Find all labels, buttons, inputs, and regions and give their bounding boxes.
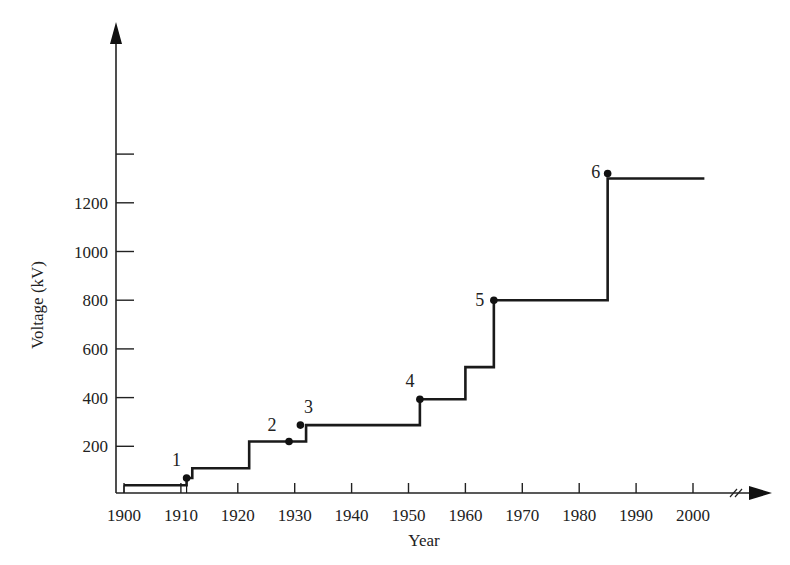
milestone-label: 3 (304, 397, 313, 417)
x-tick-label: 1920 (221, 506, 255, 525)
y-tick-label: 400 (83, 389, 109, 408)
milestone-label: 2 (268, 415, 277, 435)
y-tick-label: 200 (83, 437, 109, 456)
y-tick-label: 1200 (74, 194, 108, 213)
milestone-dot (285, 438, 293, 446)
voltage-step-chart: 20040060080010001200 1900191019201930194… (0, 0, 790, 565)
x-tick-label: 1910 (164, 506, 198, 525)
y-tick-label: 1000 (74, 243, 108, 262)
milestone-label: 5 (475, 290, 484, 310)
milestone-dot (490, 296, 498, 304)
milestone-label: 6 (591, 162, 600, 182)
x-tick-label: 1970 (505, 506, 539, 525)
x-tick-label: 1930 (278, 506, 312, 525)
x-tick-label: 1900 (107, 506, 141, 525)
milestone-dot (416, 396, 424, 404)
annotations: 123456 (172, 162, 611, 482)
y-tick-label: 600 (83, 340, 109, 359)
y-axis-arrow-icon (110, 22, 122, 44)
step-line (124, 178, 704, 485)
x-tick-label: 1950 (392, 506, 426, 525)
x-axis: 1900191019201930194019501960197019801990… (107, 483, 772, 525)
x-tick-label: 1980 (562, 506, 596, 525)
milestone-label: 1 (172, 450, 181, 470)
y-axis: 20040060080010001200 (74, 22, 134, 493)
milestone-label: 4 (405, 371, 414, 391)
x-axis-title: Year (408, 531, 440, 550)
y-axis-title: Voltage (kV) (28, 261, 47, 349)
milestone-dot (604, 170, 612, 178)
milestone-dot (297, 421, 305, 429)
x-tick-label: 1990 (619, 506, 653, 525)
x-axis-arrow-icon (749, 486, 772, 500)
x-tick-label: 1940 (335, 506, 369, 525)
x-tick-label: 1960 (448, 506, 482, 525)
milestone-dot (183, 474, 191, 482)
x-tick-label: 2000 (676, 506, 710, 525)
step-series (124, 178, 704, 493)
y-tick-label: 800 (83, 291, 109, 310)
